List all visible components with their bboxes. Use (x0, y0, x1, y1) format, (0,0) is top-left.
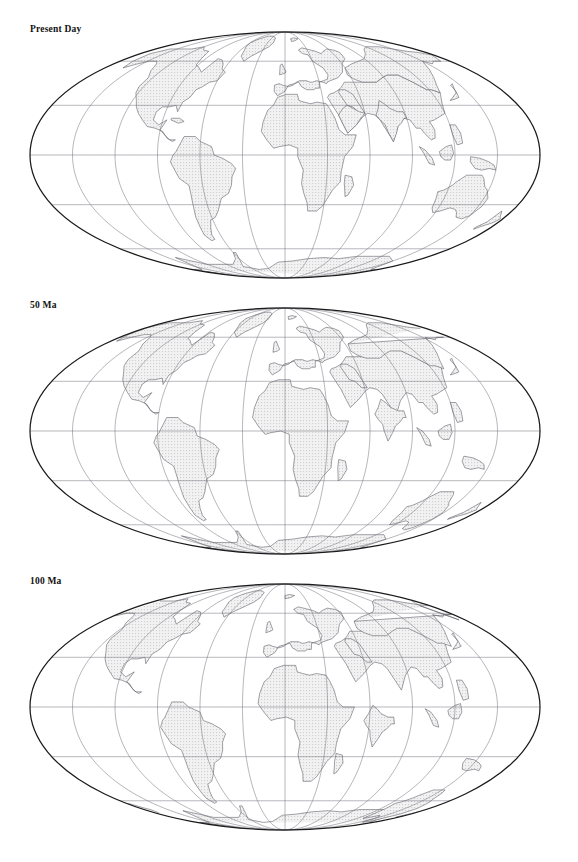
map-canvas-100ma (0, 552, 578, 862)
map-panel-present-day: Present Day (0, 0, 578, 290)
panel-label-50ma: 50 Ma (30, 300, 57, 310)
map-panel-100ma: 100 Ma (0, 552, 578, 862)
paleogeographic-figure: Present Day 50 Ma 100 Ma (0, 0, 578, 862)
map-panel-50ma: 50 Ma (0, 276, 578, 566)
map-canvas-present-day (0, 0, 578, 290)
panel-label-present-day: Present Day (30, 24, 81, 34)
panel-label-100ma: 100 Ma (30, 576, 62, 586)
map-canvas-50ma (0, 276, 578, 566)
